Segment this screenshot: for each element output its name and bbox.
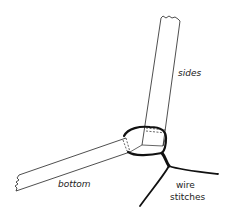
diagram-canvas: sides bottom wire stitches [0,0,232,215]
wire-label-line1: wire [176,180,195,190]
wire-label-line2: stitches [170,192,205,202]
basket-joint-drawing [0,0,232,215]
sides-label: sides [178,68,201,78]
bottom-label: bottom [58,179,91,189]
